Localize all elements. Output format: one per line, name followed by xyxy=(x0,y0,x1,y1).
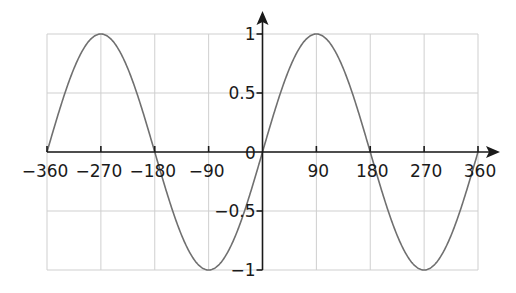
axes xyxy=(47,11,500,270)
sine-graph: −360−270−180−90090180270360 10.5−0.5−1 xyxy=(0,0,516,293)
x-tick-label: −360 xyxy=(22,161,69,181)
x-tick-label: 180 xyxy=(356,161,388,181)
x-tick-label: 270 xyxy=(410,161,442,181)
x-tick-label: −180 xyxy=(129,161,176,181)
y-tick-label: −1 xyxy=(230,260,255,280)
x-tick-label: −90 xyxy=(189,161,225,181)
x-tick-label: 90 xyxy=(308,161,330,181)
x-tick-label: 360 xyxy=(464,161,496,181)
y-tick-label: −0.5 xyxy=(214,201,255,221)
origin-label: 0 xyxy=(245,143,256,163)
y-tick-label: 1 xyxy=(245,24,256,44)
x-tick-label: −270 xyxy=(76,161,123,181)
y-tick-label: 0.5 xyxy=(228,83,255,103)
